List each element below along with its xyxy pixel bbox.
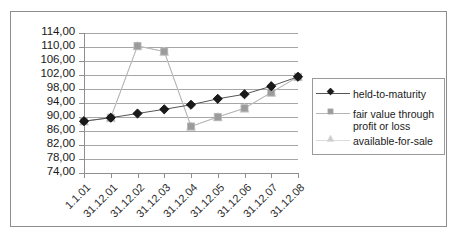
chart-legend: held-to-maturityfair value through profi…: [312, 78, 445, 155]
square-icon: [326, 107, 335, 116]
x-axis-tick-mark: [138, 173, 139, 178]
y-axis-tick-label: 114,00: [17, 25, 75, 37]
gridline: [84, 117, 298, 118]
gridline: [84, 75, 298, 76]
y-axis-line: [84, 33, 85, 174]
y-axis-tick-label: 94,00: [17, 95, 75, 107]
x-axis-tick-mark: [298, 173, 299, 178]
y-axis-tick-label: 82,00: [17, 137, 75, 149]
x-axis-tick-mark: [218, 173, 219, 178]
gridline: [84, 33, 298, 34]
legend-entry-fair-value-through-profit-or-loss[interactable]: fair value through profit or loss: [313, 107, 446, 132]
legend-marker-sample: [313, 134, 353, 147]
chart-screenshot: 114,00110,00106,00102,0098,0094,0090,008…: [0, 0, 460, 237]
legend-marker-sample: [313, 87, 353, 100]
x-axis-tick-mark: [271, 173, 272, 178]
x-axis-tick-mark: [245, 173, 246, 178]
gridline: [84, 145, 298, 146]
y-axis-tick-label: 98,00: [17, 81, 75, 93]
x-axis-tick-mark: [191, 173, 192, 178]
gridline: [84, 89, 298, 90]
legend-entry-label: held-to-maturity: [353, 87, 426, 100]
gridline: [84, 159, 298, 160]
x-axis-tick-mark: [84, 173, 85, 178]
diamond-icon: [326, 87, 335, 96]
gridline: [84, 131, 298, 132]
y-axis-tick-label: 90,00: [17, 109, 75, 121]
y-axis-tick-label: 102,00: [17, 67, 75, 79]
y-axis-tick-label: 106,00: [17, 53, 75, 65]
y-axis-tick-label: 86,00: [17, 123, 75, 135]
y-axis-tick-label: 110,00: [17, 39, 75, 51]
gridline: [84, 61, 298, 62]
x-axis-tick-mark: [111, 173, 112, 178]
x-axis-tick-mark: [164, 173, 165, 178]
gridline: [84, 47, 298, 48]
plot-area: [84, 33, 298, 173]
figure-frame: 114,00110,00106,00102,0098,0094,0090,008…: [10, 11, 447, 227]
legend-marker-sample: [313, 107, 353, 120]
gridline: [84, 103, 298, 104]
y-axis-tick-label: 78,00: [17, 151, 75, 163]
legend-entry-available-for-sale[interactable]: available-for-sale: [313, 134, 446, 147]
legend-entry-label: fair value through profit or loss: [353, 107, 434, 132]
y-axis-tick-label: 74,00: [17, 165, 75, 177]
triangle-icon: [326, 134, 335, 143]
legend-entry-held-to-maturity[interactable]: held-to-maturity: [313, 87, 446, 100]
legend-entry-label: available-for-sale: [353, 134, 433, 147]
